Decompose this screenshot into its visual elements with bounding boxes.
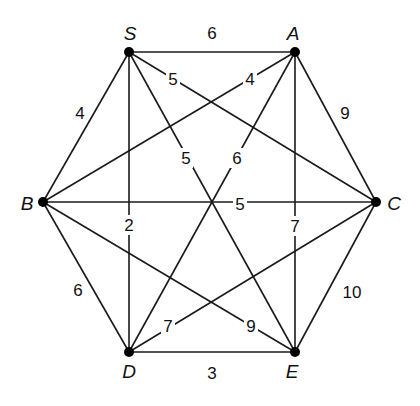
edge-weight: 6: [232, 149, 241, 168]
edge-weight: 10: [343, 283, 362, 302]
edge-weight: 6: [73, 281, 82, 300]
edge-weight-label: 5: [179, 148, 193, 168]
vertex-dot: [124, 347, 134, 357]
vertex-label: A: [286, 23, 300, 44]
edge-weight: 9: [246, 317, 255, 336]
vertex-dot: [290, 347, 300, 357]
edge-weight-label: 2: [122, 215, 136, 235]
edge-weight: 5: [235, 195, 244, 214]
vertex-dot: [290, 47, 300, 57]
vertex-label: D: [122, 361, 136, 382]
edge-weight: 6: [207, 24, 216, 43]
edge-weight-label: 4: [243, 69, 257, 89]
edge-weight: 9: [340, 104, 349, 123]
edge-weight: 7: [163, 317, 172, 336]
edge-weight-label: 3: [207, 364, 216, 383]
background: [0, 0, 420, 406]
vertex-label: C: [387, 193, 401, 214]
edge-weight-label: 5: [166, 69, 180, 89]
edge-weight-label: 7: [288, 216, 302, 236]
vertex-dot: [371, 197, 381, 207]
edge-weight-label: 4: [75, 104, 84, 123]
edge-weight: 5: [168, 70, 177, 89]
edge-weight-label: 6: [230, 148, 244, 168]
edge-weight: 3: [207, 364, 216, 383]
edge-weight-label: 9: [340, 104, 349, 123]
edge-weight: 7: [290, 217, 299, 236]
edge-weight: 5: [181, 149, 190, 168]
edge-weight-label: 6: [73, 281, 82, 300]
edge-weight-label: 10: [343, 283, 362, 302]
edge-weight-label: 6: [207, 24, 216, 43]
edge-weight: 2: [124, 216, 133, 235]
edge-weight: 4: [75, 104, 84, 123]
graph-diagram: 6452549675697103 SABCDE: [0, 0, 420, 406]
vertex-dot: [124, 47, 134, 57]
vertex-label: E: [286, 361, 299, 382]
edge-weight-label: 9: [244, 316, 258, 336]
vertex-label: S: [124, 23, 137, 44]
edge-weight-label: 5: [233, 194, 247, 214]
vertex-dot: [38, 197, 48, 207]
edge-weight-label: 7: [161, 316, 175, 336]
vertex-label: B: [21, 193, 34, 214]
edge-weight: 4: [245, 70, 254, 89]
